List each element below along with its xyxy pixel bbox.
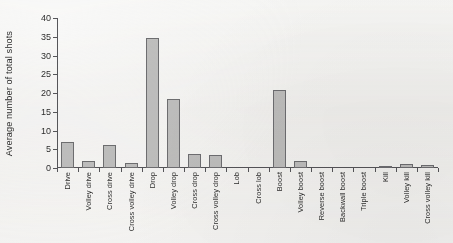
x-tick-label: Cross lob (254, 172, 263, 204)
bar-slot (375, 18, 396, 168)
y-tick-label: 0 (46, 163, 51, 173)
y-tick-label: 10 (41, 126, 51, 136)
bar-slot (57, 18, 78, 168)
x-tick-label: Cross drop (190, 172, 199, 209)
y-tick-label: 15 (41, 107, 51, 117)
x-tick-label: Reverse boost (317, 172, 326, 220)
bar-kill (379, 166, 392, 168)
bar-slot (290, 18, 311, 168)
x-label-slot: Lob (226, 172, 247, 242)
x-label-slot: Volley drive (78, 172, 99, 242)
x-tick-label: Volley drop (169, 172, 178, 209)
x-label-slot: Kill (375, 172, 396, 242)
plot-area: 0510152025303540 (57, 18, 438, 168)
bar-volley-boost (294, 161, 307, 168)
bar-drop (146, 38, 159, 169)
bar-slot (121, 18, 142, 168)
bar-slot (163, 18, 184, 168)
x-label-slot: Backwall boost (332, 172, 353, 242)
x-tick-label: Cross volley drop (211, 172, 220, 230)
x-label-slot: Volley boost (290, 172, 311, 242)
x-tick-label: Cross volley kill (423, 172, 432, 224)
bar-slot (184, 18, 205, 168)
bar-volley-drive (82, 161, 95, 169)
x-tick-label: Cross volley drive (127, 172, 136, 231)
x-label-slot: Reverse boost (311, 172, 332, 242)
bar-slot (78, 18, 99, 168)
x-label-slot: Volley kill (396, 172, 417, 242)
x-tick-label: Kill (381, 172, 390, 182)
bar-cross-volley-drop (209, 155, 222, 168)
bar-slot (226, 18, 247, 168)
x-label-slot: Drive (57, 172, 78, 242)
x-tick-label: Drop (148, 172, 157, 188)
x-tick-label: Volley drive (84, 172, 93, 210)
bar-slot (269, 18, 290, 168)
x-label-slot: Drop (142, 172, 163, 242)
x-label-slot: Boost (269, 172, 290, 242)
bar-slot (311, 18, 332, 168)
y-tick-label: 25 (41, 69, 51, 79)
y-tick-label: 20 (41, 88, 51, 98)
x-label-slot: Cross volley drive (121, 172, 142, 242)
bar-cross-drop (188, 154, 201, 168)
bar-drive (61, 142, 74, 168)
x-tick-label: Drive (63, 172, 72, 190)
bar-volley-kill (400, 164, 413, 168)
bar-slot (248, 18, 269, 168)
x-label-slot: Triple boost (353, 172, 374, 242)
x-tick-label: Volley kill (402, 172, 411, 203)
bar-slot (205, 18, 226, 168)
x-tick-label: Volley boost (296, 172, 305, 212)
bar-slot (99, 18, 120, 168)
x-label-slot: Cross volley drop (205, 172, 226, 242)
bar-series (57, 18, 438, 168)
bar-chart: Average number of total shots 0510152025… (0, 0, 453, 243)
x-label-slot: Cross drop (184, 172, 205, 242)
x-label-slot: Cross drive (99, 172, 120, 242)
x-label-slot: Cross volley kill (417, 172, 438, 242)
y-tick-label: 5 (46, 144, 51, 154)
bar-slot (332, 18, 353, 168)
y-tick-label: 35 (41, 32, 51, 42)
bar-slot (417, 18, 438, 168)
y-tick-label: 40 (41, 13, 51, 23)
bar-cross-drive (103, 145, 116, 168)
x-label-slot: Volley drop (163, 172, 184, 242)
y-axis-title: Average number of total shots (2, 14, 16, 174)
y-tick-label: 30 (41, 51, 51, 61)
x-tick-label: Backwall boost (338, 172, 347, 222)
x-tick-label: Triple boost (359, 172, 368, 211)
x-tick-label: Cross drive (105, 172, 114, 210)
bar-boost (273, 90, 286, 168)
bar-slot (396, 18, 417, 168)
x-tick-label: Lob (232, 172, 241, 184)
y-axis-title-text: Average number of total shots (4, 31, 14, 156)
bar-volley-drop (167, 99, 180, 168)
bar-slot (142, 18, 163, 168)
x-label-slot: Cross lob (248, 172, 269, 242)
x-axis-labels: DriveVolley driveCross driveCross volley… (57, 172, 438, 242)
x-tick-mark (438, 168, 439, 172)
bar-slot (353, 18, 374, 168)
bar-cross-volley-drive (125, 163, 138, 168)
bar-cross-volley-kill (421, 165, 434, 168)
x-tick-label: Boost (275, 172, 284, 191)
